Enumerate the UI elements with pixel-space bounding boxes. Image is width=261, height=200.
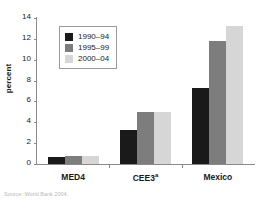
bar-med4-1995-99 — [65, 156, 82, 164]
y-axis-tick-label: 4 — [27, 116, 31, 125]
x-axis-label-mexico: Mexico — [178, 172, 258, 182]
bar-mexico-2000-04 — [226, 26, 243, 164]
legend-item[interactable]: 1995–99 — [65, 42, 109, 53]
y-axis-tick-label: 0 — [27, 158, 31, 167]
y-axis-tick-label: 6 — [27, 95, 31, 104]
y-axis-tick-label: 2 — [27, 137, 31, 146]
bar-cee3-1990-94 — [120, 130, 137, 164]
bar-med4-1990-94 — [48, 157, 65, 164]
legend-item[interactable]: 2000–04 — [65, 53, 109, 64]
x-axis-tick-mark — [109, 165, 110, 168]
y-axis-tick-label: 10 — [22, 54, 31, 63]
y-axis-tick-label: 8 — [27, 75, 31, 84]
legend-item[interactable]: 1990–94 — [65, 31, 109, 42]
gray-swatch-icon — [65, 44, 73, 52]
x-axis-label-med4: MED4 — [33, 172, 113, 182]
light-gray-swatch-icon — [65, 55, 73, 63]
x-axis-line — [36, 164, 255, 165]
y-axis-tick-mark — [34, 164, 37, 165]
bar-mexico-1990-94 — [192, 88, 209, 164]
x-axis-tick-mark — [182, 165, 183, 168]
legend-item-label: 1995–99 — [78, 42, 109, 53]
footnote-marker: a — [155, 172, 158, 178]
bar-cee3-2000-04 — [154, 112, 171, 164]
bar-cee3-1995-99 — [137, 112, 154, 164]
chart-legend: 1990–941995–992000–04 — [59, 26, 117, 69]
y-axis-tick-label: 12 — [22, 33, 31, 42]
source-note: Source: World Bank 2004. — [4, 191, 68, 197]
black-swatch-icon — [65, 33, 73, 41]
x-axis-label-cee3: CEE3a — [106, 172, 186, 183]
bar-chart-figure: percent 14121086420 MED4CEE3aMexico 1990… — [0, 0, 261, 200]
bar-med4-2000-04 — [82, 156, 99, 164]
legend-item-label: 2000–04 — [78, 53, 109, 64]
legend-item-label: 1990–94 — [78, 31, 109, 42]
y-axis-label: percent — [4, 49, 13, 109]
y-axis-tick-label: 14 — [22, 12, 31, 21]
bar-mexico-1995-99 — [209, 41, 226, 164]
